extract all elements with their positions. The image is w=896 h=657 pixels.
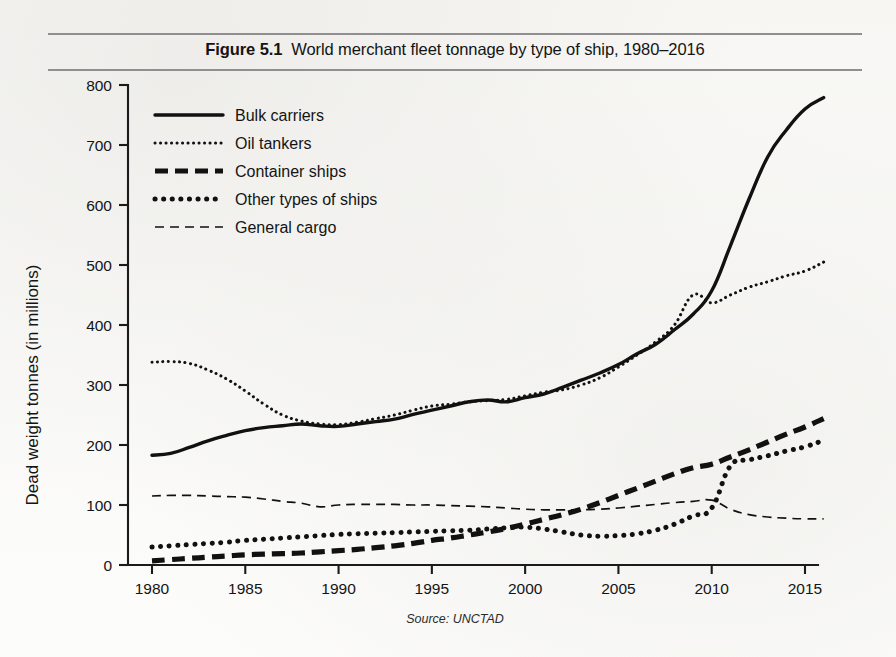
series-line-general-cargo	[152, 495, 824, 519]
figure-title: Figure 5.1 World merchant fleet tonnage …	[48, 40, 862, 59]
chart-legend: Bulk carriersOil tankersContainer shipsO…	[155, 107, 377, 236]
x-tick-label: 2015	[788, 580, 822, 597]
figure-title-text: World merchant fleet tonnage by type of …	[291, 40, 704, 58]
series-line-other-types-of-ships	[152, 440, 824, 547]
x-tick-label: 1980	[135, 580, 170, 597]
legend-label: General cargo	[235, 219, 336, 236]
x-tick-label: 2005	[601, 580, 635, 597]
y-tick-label: 800	[86, 77, 112, 94]
legend-label: Oil tankers	[235, 135, 311, 152]
y-tick-label: 200	[86, 437, 112, 454]
source-note: Source: UNCTAD	[48, 612, 862, 626]
x-tick-label: 1985	[228, 580, 262, 597]
x-tick-label: 2000	[508, 580, 543, 597]
legend-label: Container ships	[235, 163, 346, 180]
figure-title-spacer	[282, 40, 291, 58]
legend-label: Bulk carriers	[235, 107, 324, 124]
x-tick-label: 1995	[415, 580, 449, 597]
x-axis-ticks: 19801985199019952000200520102015	[135, 565, 822, 597]
figure-container: Figure 5.1 World merchant fleet tonnage …	[0, 0, 896, 657]
title-rule-top	[48, 33, 862, 35]
y-tick-label: 0	[103, 557, 112, 574]
figure-number: Figure 5.1	[205, 40, 282, 58]
y-tick-label: 100	[86, 497, 112, 514]
y-tick-label: 700	[86, 137, 112, 154]
legend-label: Other types of ships	[235, 191, 377, 208]
y-tick-label: 400	[86, 317, 112, 334]
line-chart: Dead weight tonnes (in millions) 0100200…	[0, 60, 896, 605]
x-tick-label: 2010	[694, 580, 729, 597]
y-axis-label: Dead weight tonnes (in millions)	[23, 265, 42, 506]
y-tick-label: 500	[86, 257, 112, 274]
y-tick-label: 600	[86, 197, 112, 214]
y-axis-ticks: 0100200300400500600700800	[86, 77, 128, 574]
y-tick-label: 300	[86, 377, 112, 394]
x-tick-label: 1990	[321, 580, 356, 597]
